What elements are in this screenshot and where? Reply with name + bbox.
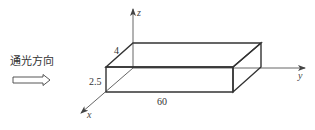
dimension-60-label: 60 [157,96,167,107]
dimension-2-5-label: 2.5 [89,76,102,87]
light-direction-arrow-icon [13,75,50,86]
x-axis-label: x [86,109,92,120]
box [106,43,261,92]
light-direction-label: 通光方向 [10,54,54,68]
crystal-box-diagram: 通光方向 z y x 4 2.5 60 [0,0,315,130]
x-axis [81,68,133,113]
z-axis-label: z [136,7,141,18]
y-axis-label: y [297,70,303,81]
box-right-face [233,43,261,92]
box-front-face [106,67,233,92]
dimension-4-label: 4 [114,45,119,56]
